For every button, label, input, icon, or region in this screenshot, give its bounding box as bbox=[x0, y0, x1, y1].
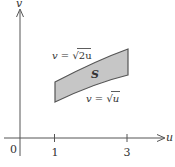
region-diagram: v u 0 1 3 S v = √2u v = √u bbox=[0, 0, 175, 167]
upper-eq: = bbox=[58, 50, 73, 61]
lower-curve-label: v = √u bbox=[86, 92, 120, 105]
lower-arg: u bbox=[113, 93, 119, 104]
v-axis-label: v bbox=[16, 0, 23, 10]
upper-arg: 2u bbox=[79, 50, 92, 61]
svg-text:v = √u: v = √u bbox=[86, 93, 119, 104]
u-axis-label: u bbox=[166, 131, 173, 144]
diagram-canvas: v u 0 1 3 S v = √2u v = √u bbox=[0, 0, 175, 167]
svg-text:v = √2u: v = √2u bbox=[52, 50, 92, 61]
tick-label-3: 3 bbox=[124, 146, 131, 159]
region-label: S bbox=[91, 68, 99, 81]
upper-curve-label: v = √2u bbox=[52, 49, 92, 62]
tick-label-1: 1 bbox=[52, 146, 59, 159]
origin-label: 0 bbox=[10, 143, 17, 156]
lower-eq: = bbox=[92, 93, 107, 104]
